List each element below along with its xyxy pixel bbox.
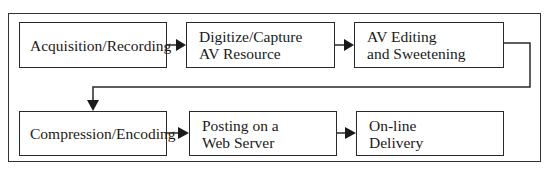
step-label: Acquisition/Recording [20, 37, 171, 54]
step-label: AV Editing and Sweetening [355, 28, 466, 62]
step-label: Compression/Encoding [20, 125, 176, 142]
step-posting-web-server: Posting on a Web Server [189, 111, 337, 156]
step-compression-encoding: Compression/Encoding [19, 111, 167, 156]
step-digitize-capture: Digitize/Capture AV Resource [186, 22, 335, 68]
step-av-editing: AV Editing and Sweetening [354, 22, 504, 68]
step-label: On-line Delivery [357, 117, 423, 151]
step-online-delivery: On-line Delivery [356, 111, 504, 156]
step-label: Digitize/Capture AV Resource [187, 28, 302, 62]
step-label: Posting on a Web Server [190, 117, 279, 151]
step-acquisition-recording: Acquisition/Recording [19, 22, 167, 68]
